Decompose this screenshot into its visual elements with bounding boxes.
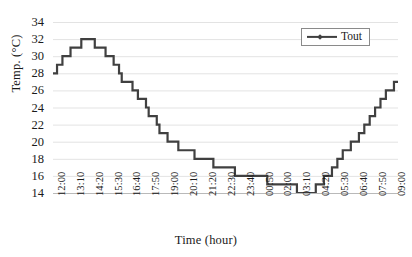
x-axis-title: Time (hour) <box>0 233 412 248</box>
legend-label-tout: Tout <box>341 31 362 43</box>
x-tick-label: 05:30 <box>340 172 351 196</box>
x-tick-label: 09:00 <box>397 172 408 196</box>
x-tick-label: 06:40 <box>359 172 370 196</box>
x-tick-label: 17:50 <box>151 172 162 196</box>
x-tick-label: 07:50 <box>378 172 389 196</box>
x-tick-label: 23:40 <box>246 172 257 196</box>
x-tick-label: 13:10 <box>76 172 87 196</box>
x-tick-label: 20:10 <box>189 172 200 196</box>
x-tick-label: 15:30 <box>114 172 125 196</box>
x-tick-label: 21:20 <box>208 172 219 196</box>
x-tick-label: 00:50 <box>265 172 276 196</box>
x-tick-label: 04:20 <box>321 172 332 196</box>
legend-line-icon <box>307 32 337 41</box>
x-tick-label: 19:00 <box>170 172 181 196</box>
x-tick-label: 02:00 <box>283 172 294 196</box>
x-tick-label: 14:20 <box>95 172 106 196</box>
x-tick-label: 16:40 <box>132 172 143 196</box>
x-tick-label: 12:00 <box>57 172 68 196</box>
chart-legend[interactable]: Tout <box>301 28 370 46</box>
chart-container: Temp. (°C) 1416182022242628303234 12:001… <box>0 0 412 257</box>
x-tick-label: 03:10 <box>302 172 313 196</box>
x-tick-label: 22:30 <box>227 172 238 196</box>
